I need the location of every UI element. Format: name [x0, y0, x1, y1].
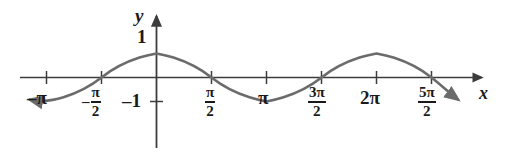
- y-tick-label-one: 1: [137, 27, 147, 46]
- fraction-denominator: 2: [308, 104, 326, 119]
- fraction-denominator: 2: [91, 104, 101, 119]
- x-tick-label-two-pi: 2π: [360, 88, 380, 107]
- graph-canvas: [0, 0, 516, 163]
- graph-figure: y x 1 –1 –π – π 2 π 2 π: [0, 0, 516, 163]
- x-tick-label-neg-pi-over2: – π 2: [82, 85, 101, 119]
- x-tick-label-neg-pi: –π: [27, 88, 47, 107]
- fraction-numerator: π: [205, 85, 215, 100]
- x-tick-label-pi: π: [258, 88, 268, 107]
- x-axis-label: x: [479, 84, 488, 102]
- fraction-denominator: 2: [205, 104, 215, 119]
- x-tick-label-five-pi-over2: 5π 2: [417, 85, 436, 119]
- fraction-numerator: 5π: [418, 85, 436, 100]
- x-tick-label-three-pi-over2: 3π 2: [307, 85, 326, 119]
- fraction-numerator: 3π: [308, 85, 326, 100]
- fraction-denominator: 2: [418, 104, 436, 119]
- fraction-numerator: π: [91, 85, 101, 100]
- fraction-sign: –: [82, 94, 90, 109]
- y-tick-label-neg-one: –1: [122, 91, 141, 110]
- y-axis-label: y: [135, 6, 143, 25]
- x-tick-label-pi-over2: π 2: [204, 85, 215, 119]
